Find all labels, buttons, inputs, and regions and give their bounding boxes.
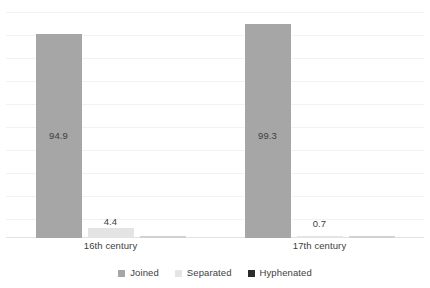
bar-separated-17th-century[interactable]: 0.7 xyxy=(297,236,343,238)
bar-chart: 94.9 4.4 xyxy=(0,0,430,288)
chart-legend: Joined Separated Hyphenated xyxy=(0,264,430,282)
bar-slot-hyphenated xyxy=(349,4,395,238)
legend-label: Joined xyxy=(130,268,159,278)
bar-value-label: 0.7 xyxy=(297,218,343,229)
separated-swatch-icon xyxy=(175,270,182,277)
bar-slot-joined: 94.9 xyxy=(36,4,82,238)
bars: 99.3 0.7 xyxy=(215,4,424,238)
category-label-16th-century: 16th century xyxy=(6,240,215,256)
bar-group-17th-century: 99.3 0.7 xyxy=(215,4,424,238)
bar-joined-16th-century[interactable]: 94.9 xyxy=(36,34,82,238)
hyphenated-swatch-icon xyxy=(248,270,255,277)
bar-separated-16th-century[interactable]: 4.4 xyxy=(88,228,134,238)
bar-groups: 94.9 4.4 xyxy=(6,4,424,238)
bar-slot-separated: 4.4 xyxy=(88,4,134,238)
bar-slot-hyphenated xyxy=(140,4,186,238)
joined-swatch-icon xyxy=(118,270,125,277)
bar-hyphenated-16th-century[interactable] xyxy=(140,236,186,238)
legend-item-joined[interactable]: Joined xyxy=(118,268,159,278)
bar-value-label: 99.3 xyxy=(245,130,291,141)
bar-slot-separated: 0.7 xyxy=(297,4,343,238)
legend-item-hyphenated[interactable]: Hyphenated xyxy=(248,268,312,278)
bar-joined-17th-century[interactable]: 99.3 xyxy=(245,24,291,238)
legend-label: Hyphenated xyxy=(260,268,312,278)
legend-item-separated[interactable]: Separated xyxy=(175,268,232,278)
plot-area: 94.9 4.4 xyxy=(6,4,424,238)
bar-value-label: 4.4 xyxy=(88,216,134,227)
bar-value-label: 94.9 xyxy=(36,130,82,141)
bar-group-16th-century: 94.9 4.4 xyxy=(6,4,215,238)
bars: 94.9 4.4 xyxy=(6,4,215,238)
bar-slot-joined: 99.3 xyxy=(245,4,291,238)
category-axis: 16th century 17th century xyxy=(6,240,424,256)
legend-label: Separated xyxy=(187,268,232,278)
bar-hyphenated-17th-century[interactable] xyxy=(349,236,395,238)
category-label-17th-century: 17th century xyxy=(215,240,424,256)
